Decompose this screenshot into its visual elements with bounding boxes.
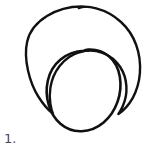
outer-circle-path [26,7,140,114]
inner-circle-path [47,50,121,132]
sketch-page: 1. [0,0,165,155]
nested-circles-drawing [0,0,165,155]
outer-circle-start-tick [79,7,88,9]
figure-caption: 1. [4,131,16,146]
